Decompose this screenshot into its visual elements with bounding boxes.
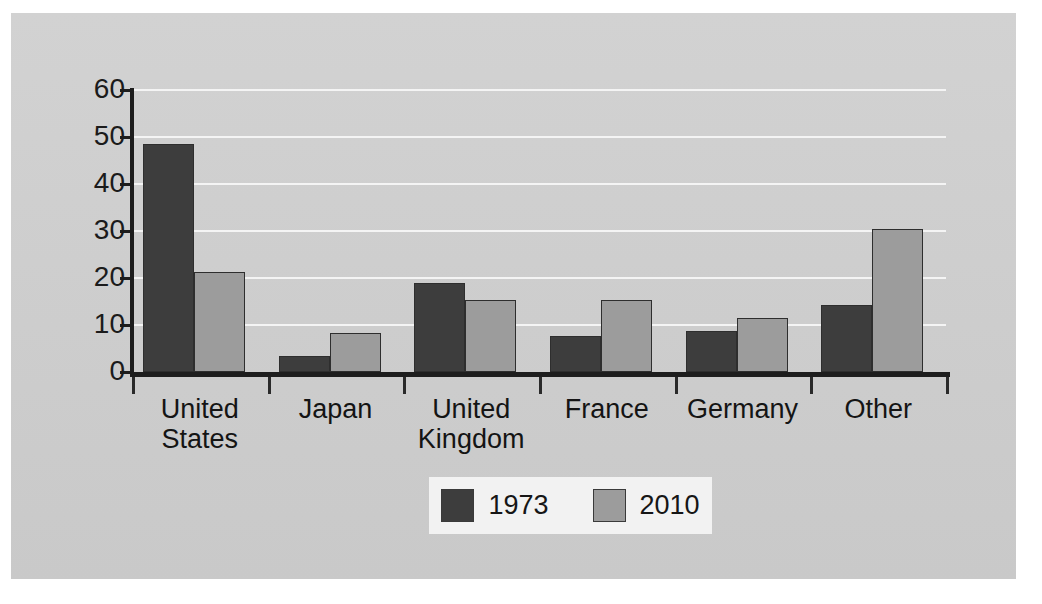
gridline — [132, 230, 946, 232]
bar-united-states-1973 — [143, 144, 194, 372]
bar-other-1973 — [821, 305, 872, 372]
gridline — [132, 183, 946, 185]
chart-panel: 0102030405060UnitedStatesJapanUnitedKing… — [11, 13, 1016, 579]
x-axis-category-other: Other — [810, 394, 946, 424]
bar-france-1973 — [550, 336, 601, 372]
gridline — [132, 136, 946, 138]
x-axis-category-france: France — [539, 394, 675, 424]
bar-japan-1973 — [279, 356, 330, 372]
legend-label-1973: 1973 — [488, 492, 548, 519]
x-axis-tick — [810, 377, 813, 394]
y-axis-label: 30 — [55, 216, 125, 244]
x-axis-category-united-states: UnitedStates — [132, 394, 268, 454]
x-axis-category-germany: Germany — [675, 394, 811, 424]
x-axis-tick — [946, 377, 949, 394]
category-label-line: States — [132, 424, 268, 454]
category-label-line: Other — [810, 394, 946, 424]
bar-other-2010 — [872, 229, 923, 372]
legend-swatch-1973 — [441, 489, 474, 522]
category-label-line: Germany — [675, 394, 811, 424]
bar-germany-2010 — [737, 318, 788, 372]
y-axis-label: 20 — [55, 263, 125, 291]
legend-item-1973[interactable]: 1973 — [441, 489, 548, 522]
bar-united-kingdom-1973 — [414, 283, 465, 372]
x-axis-category-japan: Japan — [268, 394, 404, 424]
category-label-line: United — [403, 394, 539, 424]
category-label-line: Kingdom — [403, 424, 539, 454]
chart-legend: 1973 2010 — [429, 477, 712, 534]
bar-united-states-2010 — [194, 272, 245, 372]
category-label-line: France — [539, 394, 675, 424]
x-axis-category-united-kingdom: UnitedKingdom — [403, 394, 539, 454]
legend-label-2010: 2010 — [640, 492, 700, 519]
bar-japan-2010 — [330, 333, 381, 372]
y-axis-label: 0 — [55, 357, 125, 385]
x-axis-tick — [539, 377, 542, 394]
legend-item-2010[interactable]: 2010 — [593, 489, 700, 522]
x-axis-tick — [403, 377, 406, 394]
y-axis-label: 40 — [55, 169, 125, 197]
gridline — [132, 89, 946, 91]
x-axis-tick — [132, 377, 135, 394]
bar-united-kingdom-2010 — [465, 300, 516, 372]
y-axis-label: 60 — [55, 75, 125, 103]
figure-root: 0102030405060UnitedStatesJapanUnitedKing… — [0, 0, 1042, 604]
y-axis-label: 10 — [55, 310, 125, 338]
bar-germany-1973 — [686, 331, 737, 372]
category-label-line: United — [132, 394, 268, 424]
y-axis — [130, 88, 134, 375]
x-axis-tick — [268, 377, 271, 394]
bar-france-2010 — [601, 300, 652, 372]
x-axis-tick — [675, 377, 678, 394]
y-axis-label: 50 — [55, 122, 125, 150]
category-label-line: Japan — [268, 394, 404, 424]
legend-swatch-2010 — [593, 489, 626, 522]
gridline — [132, 277, 946, 279]
